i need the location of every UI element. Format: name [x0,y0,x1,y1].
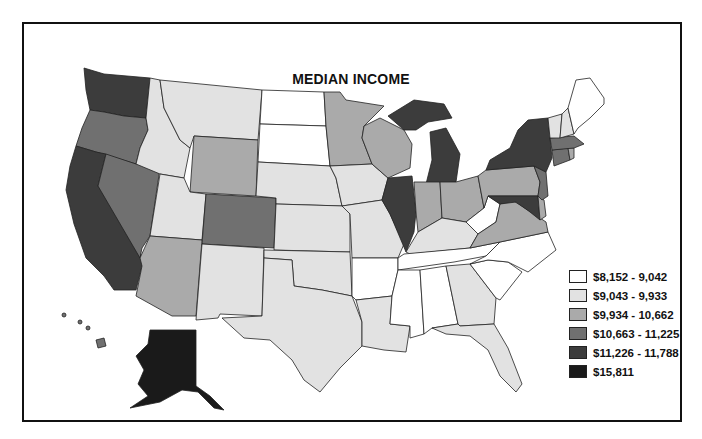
legend-label: $9,934 - 10,662 [593,309,674,321]
state-HI-island[interactable] [86,326,90,330]
state-AZ[interactable] [136,236,202,316]
legend-label: $9,043 - 9,933 [593,290,667,302]
legend-swatch [569,327,587,340]
state-MI[interactable] [388,100,452,130]
state-KS[interactable] [274,204,350,252]
legend-item: $8,152 - 9,042 [569,267,679,286]
state-WY[interactable] [190,136,258,196]
legend-item: $10,663 - 11,225 [569,324,679,343]
state-NM[interactable] [196,244,264,320]
state-CT[interactable] [552,148,570,166]
legend-swatch [569,289,587,302]
legend-label: $8,152 - 9,042 [593,271,667,283]
state-AR[interactable] [352,258,398,300]
legend-item: $9,934 - 10,662 [569,305,679,324]
legend-label: $11,226 - 11,788 [593,347,679,359]
state-NY[interactable] [486,118,552,172]
state-HI[interactable] [96,338,106,348]
legend-item: $9,043 - 9,933 [569,286,679,305]
state-ME[interactable] [568,78,604,134]
state-MI-lower[interactable] [426,128,460,184]
legend-swatch [569,308,587,321]
state-HI-island[interactable] [78,320,82,324]
legend-item: $15,811 [569,362,679,381]
state-FL[interactable] [432,324,522,392]
state-HI-island[interactable] [62,313,66,317]
legend-swatch [569,365,587,378]
legend-label: $15,811 [593,366,634,378]
legend-swatch [569,270,587,283]
state-CO[interactable] [202,194,276,248]
legend-label: $10,663 - 11,225 [593,328,679,340]
state-AK[interactable] [130,330,224,410]
legend-swatch [569,346,587,359]
state-SD[interactable] [258,124,330,166]
legend-item: $11,226 - 11,788 [569,343,679,362]
state-ND[interactable] [260,90,326,126]
legend: $8,152 - 9,042 $9,043 - 9,933 $9,934 - 1… [569,267,679,381]
